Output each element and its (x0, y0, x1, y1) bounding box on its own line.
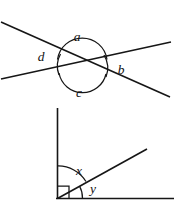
angle-label-b: b (118, 62, 125, 77)
figure-intersecting-lines: a b c d (1, 22, 171, 100)
angle-label-d: d (38, 49, 45, 64)
ray-diagonal (58, 149, 148, 199)
line-descending (1, 22, 170, 97)
angle-label-x: x (75, 163, 82, 178)
figure-right-angle-rays: x y (56, 108, 174, 199)
angle-label-c: c (76, 85, 82, 100)
angle-label-a: a (74, 29, 81, 44)
line-ascending (1, 42, 171, 79)
angle-label-y: y (88, 181, 96, 196)
angle-arc-y (80, 186, 83, 199)
angle-arc-c (59, 73, 106, 93)
geometry-canvas: a b c d x y (0, 0, 177, 209)
angle-arc-a (58, 38, 108, 59)
geometry-figure-panel: a b c d x y (0, 0, 177, 209)
